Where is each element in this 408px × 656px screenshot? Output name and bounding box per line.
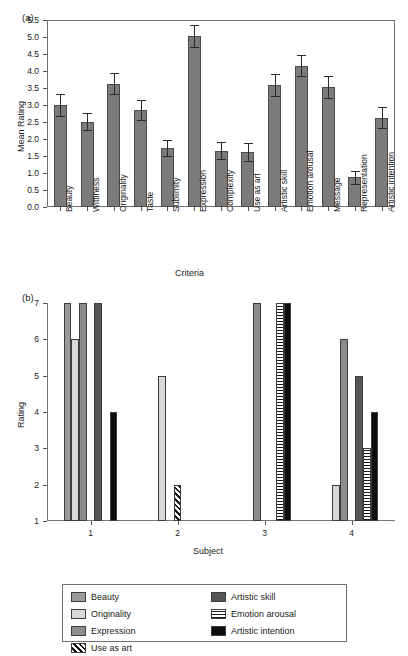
panel-b-y-tick-label: 7: [15, 298, 39, 308]
legend-item: Use as art: [71, 640, 136, 656]
panel-a-error-cap: [378, 128, 387, 129]
panel-a-error-cap: [271, 96, 280, 97]
legend-item: Artistic intention: [211, 623, 296, 639]
panel-b-bar: [79, 303, 87, 521]
panel-b-y-tick-label: 5: [15, 371, 39, 381]
panel-a-y-tick: [43, 122, 47, 123]
legend-swatch-icon: [71, 626, 86, 636]
panel-a-error-cap: [297, 76, 306, 77]
panel-b-x-axis-title: Subject: [193, 546, 223, 556]
panel-b-y-tick-label: 4: [15, 407, 39, 417]
panel-a-error-bar: [167, 140, 168, 156]
panel-a-error-bar: [328, 76, 329, 97]
panel-a-x-tick-label: Expression: [198, 170, 208, 212]
panel-a-x-tick-label: Sublimity: [171, 178, 181, 212]
legend-item-label: Artistic skill: [231, 592, 276, 602]
panel-a-error-cap: [190, 47, 199, 48]
panel-b-y-tick: [43, 412, 47, 413]
panel-a-x-tick-label: Complexity: [225, 170, 235, 212]
panel-a-error-bar: [60, 94, 61, 115]
legend-item-label: Artistic intention: [231, 626, 295, 636]
legend-item-label: Emotion arousal: [231, 609, 296, 619]
panel-a-error-cap: [110, 73, 119, 74]
panel-a-y-tick: [43, 156, 47, 157]
panel-a-error-bar: [301, 55, 302, 75]
panel-a-error-bar: [382, 107, 383, 128]
panel-b-bar: [340, 339, 348, 521]
legend-swatch-icon: [211, 592, 226, 602]
panel-a-error-cap: [244, 143, 253, 144]
panel-b-y-tick: [43, 339, 47, 340]
panel-b-x-tick-label: 3: [250, 528, 280, 538]
panel-a-error-cap: [56, 116, 65, 117]
panel-a-error-cap: [137, 100, 146, 101]
panel-a-y-tick-label: 1.0: [5, 168, 39, 178]
legend-item-label: Expression: [91, 626, 136, 636]
panel-b-bar: [94, 303, 102, 521]
panel-a-error-cap: [163, 140, 172, 141]
panel-b-y-tick: [43, 485, 47, 486]
panel-a-error-cap: [83, 130, 92, 131]
panel-a-x-tick: [60, 207, 61, 211]
panel-a-x-tick: [382, 207, 383, 211]
panel-a-y-tick-label: 5.5: [5, 15, 39, 25]
panel-b-y-tick: [43, 376, 47, 377]
legend-item-label: Originality: [91, 609, 131, 619]
panel-a-y-tick: [43, 20, 47, 21]
panel-a-y-tick-label: 2.5: [5, 117, 39, 127]
panel-a-error-bar: [221, 142, 222, 160]
panel-b-bar: [371, 412, 379, 521]
panel-a-x-tick: [221, 207, 222, 211]
panel-a-y-tick-label: 4.0: [5, 66, 39, 76]
panel-b-y-tick-label: 2: [15, 480, 39, 490]
panel-b-y-tick: [43, 521, 47, 522]
legend-item: Artistic skill: [211, 589, 296, 605]
panel-b-bar: [284, 303, 292, 521]
panel-a-x-tick-label: Message: [332, 178, 342, 213]
panel-a-x-tick: [248, 207, 249, 211]
panel-a-y-tick-label: 5.0: [5, 32, 39, 42]
panel-b-x-tick-label: 2: [163, 528, 193, 538]
legend-item-label: Use as art: [91, 643, 132, 653]
legend-item: Beauty: [71, 589, 136, 605]
panel-a-error-cap: [244, 161, 253, 162]
figure-root: (a) Mean Rating 0.00.51.01.52.02.53.03.5…: [0, 0, 408, 656]
panel-a-error-bar: [194, 25, 195, 46]
panel-a-y-tick: [43, 173, 47, 174]
panel-b-y-tick-label: 6: [15, 334, 39, 344]
panel-a-x-tick-label: Taste: [145, 192, 155, 212]
panel-a-error-cap: [378, 107, 387, 108]
legend-swatch-icon: [211, 626, 226, 636]
panel-a-y-tick: [43, 37, 47, 38]
panel-a-y-tick: [43, 71, 47, 72]
panel-a-error-bar: [114, 73, 115, 94]
panel-b-y-tick: [43, 448, 47, 449]
legend-swatch-icon: [71, 643, 86, 653]
panel-a-y-tick-label: 2.0: [5, 134, 39, 144]
panel-b-y-tick-label: 1: [15, 516, 39, 526]
panel-b-x-tick-label: 1: [76, 528, 106, 538]
panel-a-x-tick: [167, 207, 168, 211]
legend-swatch-icon: [71, 592, 86, 602]
panel-a-error-cap: [163, 156, 172, 157]
panel-b-x-tick: [178, 521, 179, 525]
panel-a-x-tick: [275, 207, 276, 211]
panel-a-y-tick-label: 0.0: [5, 202, 39, 212]
panel-a-error-cap: [110, 94, 119, 95]
panel-a-y-tick: [43, 139, 47, 140]
legend-item: Originality: [71, 606, 136, 622]
panel-a-x-tick: [87, 207, 88, 211]
panel-a-error-bar: [355, 171, 356, 183]
panel-a-x-tick: [141, 207, 142, 211]
panel-a-error-cap: [217, 142, 226, 143]
panel-a-x-tick: [301, 207, 302, 211]
panel-a-y-tick: [43, 105, 47, 106]
panel-a-error-cap: [217, 159, 226, 160]
panel-a-x-tick-label: Representation: [359, 154, 369, 212]
panel-a-error-cap: [190, 25, 199, 26]
legend-box: BeautyOriginalityExpressionUse as art Ar…: [62, 584, 347, 642]
panel-a: (a) Mean Rating 0.00.51.01.52.02.53.03.5…: [0, 0, 408, 290]
panel-b-bar: [64, 303, 72, 521]
panel-a-x-tick-label: Artistic intention: [386, 152, 396, 212]
legend-item: Emotion arousal: [211, 606, 296, 622]
